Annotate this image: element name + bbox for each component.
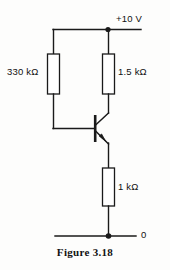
resistor-1k5-body: [103, 54, 115, 94]
supply-rail-group: [53, 27, 141, 32]
resistor-330k-label: 330 kΩ: [7, 67, 39, 77]
resistor-1k5-label: 1.5 kΩ: [118, 67, 147, 77]
ground-node-label: 0: [141, 230, 146, 240]
ground-rail-group: [55, 233, 136, 239]
collector-branch-group: [103, 30, 115, 114]
figure-container: +10 V 330 kΩ 1.5 kΩ 1 kΩ 0 Figure 3.18: [0, 0, 170, 270]
resistor-1k-label: 1 kΩ: [118, 182, 139, 192]
emitter-branch-group: [103, 143, 115, 236]
transistor-npn-symbol: [95, 113, 108, 144]
emitter-arrow-icon: [99, 134, 105, 141]
transistor-collector-lead: [96, 113, 109, 125]
left-branch-group: [48, 30, 96, 129]
supply-voltage-label: +10 V: [116, 14, 142, 24]
resistor-1k-body: [103, 168, 115, 206]
figure-caption: Figure 3.18: [0, 246, 170, 258]
junction-dot-ground-icon: [106, 233, 112, 239]
resistor-330k-body: [48, 54, 60, 94]
